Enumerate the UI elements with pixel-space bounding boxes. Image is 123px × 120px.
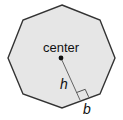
side-label-b: b: [83, 101, 91, 117]
center-label: center: [43, 40, 80, 55]
apothem-label-h: h: [60, 76, 68, 92]
octagon-diagram: center h b: [0, 0, 123, 120]
center-point: [59, 56, 64, 61]
